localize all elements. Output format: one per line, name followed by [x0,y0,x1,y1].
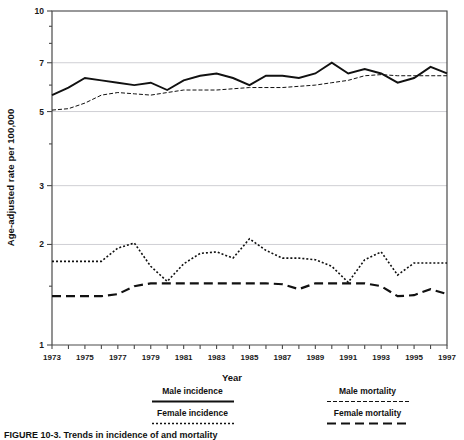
series-line [52,75,447,110]
legend-item-label: Male mortality [285,386,450,397]
svg-text:1977: 1977 [109,353,127,360]
figure-caption: FIGURE 10-3. Trends in incidence of and … [4,430,460,440]
series-line [52,283,447,296]
svg-text:1993: 1993 [372,353,390,360]
gridlines [52,11,447,244]
legend-item-label: Female mortality [285,408,450,419]
svg-text:1985: 1985 [241,353,259,360]
svg-text:1983: 1983 [208,353,226,360]
legend-item-label: Male incidence [110,386,275,397]
y-axis-ticks [47,11,52,345]
y-axis-label-text: Age-adjusted rate per 100,000 [6,109,17,247]
svg-text:1975: 1975 [76,353,94,360]
svg-text:2: 2 [39,239,44,249]
svg-text:1997: 1997 [438,353,456,360]
x-axis-tick-labels: 1973197519771979198119831985198719891991… [43,353,456,360]
figure-root: 1235710 19731975197719791981198319851987… [0,0,464,440]
line-chart: 1235710 19731975197719791981198319851987… [0,0,464,360]
svg-text:1987: 1987 [274,353,292,360]
legend-item-label: Female incidence [110,408,275,419]
y-axis-tick-labels: 1235710 [35,6,45,350]
svg-text:1991: 1991 [339,353,357,360]
svg-text:7: 7 [39,58,44,68]
svg-text:3: 3 [39,181,44,191]
svg-text:1989: 1989 [306,353,324,360]
series-line [52,239,447,283]
svg-text:1: 1 [39,340,44,350]
legend-item: Female mortality [285,408,450,425]
legend-swatch-dotted [150,421,236,425]
svg-text:1979: 1979 [142,353,160,360]
svg-text:1981: 1981 [175,353,193,360]
series-line [52,63,447,95]
legend-item: Male mortality [285,386,450,403]
legend-swatch-long-dash [325,421,411,425]
legend-item: Male incidence [110,386,275,403]
chart-legend: Male incidenceMale mortalityFemale incid… [110,386,450,425]
svg-text:1973: 1973 [43,353,61,360]
y-axis-label: Age-adjusted rate per 100,000 [2,0,20,355]
legend-swatch-solid [150,399,236,403]
legend-item: Female incidence [110,408,275,425]
svg-text:1995: 1995 [405,353,423,360]
x-axis-label: Year [0,372,464,383]
svg-text:5: 5 [39,107,44,117]
svg-text:10: 10 [35,6,45,16]
series-layer [52,63,447,296]
legend-swatch-fine-dash [325,399,411,403]
